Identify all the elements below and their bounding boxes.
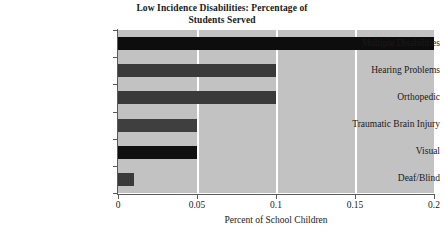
x-tick-mark [197,195,198,199]
y-tick-mark [113,57,118,58]
x-tick-mark [118,195,119,199]
y-tick-mark [113,84,118,85]
x-tick-mark [355,195,356,199]
x-tick-label-0: 0 [116,200,121,210]
gridline-x-0.2 [434,30,436,193]
chart-figure: Low Incidence Disabilities: Percentage o… [0,0,444,236]
gridline-x-0.15 [355,30,357,193]
chart-title-line-2: Students Served [0,14,444,26]
y-tick-mark [113,166,118,167]
chart-title-line-1: Low Incidence Disabilities: Percentage o… [0,2,444,14]
bar-hearing-problems [118,64,276,77]
gridline-x-0.1 [276,30,278,193]
y-tick-label-hearing-problems: Hearing Problems [331,65,444,76]
gridline-x-0.05 [197,30,199,193]
y-tick-mark [113,139,118,140]
y-tick-mark [113,112,118,113]
x-tick-label-0.1: 0.1 [270,200,282,210]
y-tick-mark [113,193,118,194]
y-tick-label-multiple-disabilities: Multiple Disabilities [331,38,444,49]
bar-deaf-blind [118,173,134,186]
bar-orthopedic [118,91,276,104]
x-tick-mark [434,195,435,199]
chart-title: Low Incidence Disabilities: Percentage o… [0,2,444,26]
bar-traumatic-brain-injury [118,119,197,132]
x-tick-label-0.2: 0.2 [428,200,440,210]
x-tick-mark [276,195,277,199]
x-tick-label-0.15: 0.15 [347,200,364,210]
y-tick-label-traumatic-brain-injury: Traumatic Brain Injury [331,119,444,130]
bar-visual [118,146,197,159]
y-tick-mark [113,30,118,31]
x-tick-label-0.05: 0.05 [189,200,206,210]
y-tick-label-deaf-blind: Deaf/Blind [331,173,444,184]
y-tick-label-orthopedic: Orthopedic [331,92,444,103]
y-tick-label-visual: Visual [331,146,444,157]
x-axis-title: Percent of School Children [118,215,434,225]
